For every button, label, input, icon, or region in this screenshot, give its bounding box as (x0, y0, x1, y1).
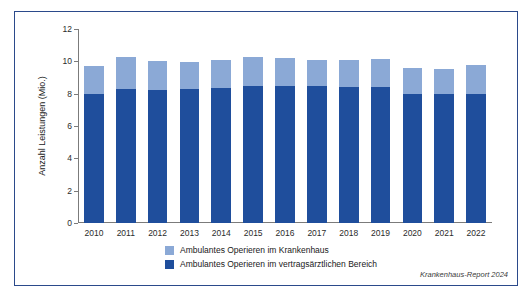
bar-group (339, 60, 359, 223)
bar-segment-krankenhaus (466, 65, 486, 93)
chart-legend: Ambulantes Operieren im KrankenhausAmbul… (165, 245, 377, 273)
y-tick-label: 2 (67, 186, 72, 196)
bar-segment-vertragsaerztlich (275, 86, 295, 223)
bar-segment-krankenhaus (243, 57, 263, 86)
x-tick-label: 2019 (365, 228, 397, 238)
bar-segment-vertragsaerztlich (403, 94, 423, 223)
legend-swatch (165, 246, 174, 255)
bar-segment-krankenhaus (434, 69, 454, 95)
bar-group (466, 65, 486, 223)
bar-segment-krankenhaus (339, 60, 359, 87)
y-tick-label: 6 (67, 121, 72, 131)
x-tick-label: 2020 (396, 228, 428, 238)
legend-swatch (165, 260, 174, 269)
bar-segment-krankenhaus (116, 57, 136, 89)
bar-segment-krankenhaus (148, 61, 168, 90)
bar-segment-vertragsaerztlich (211, 88, 231, 223)
bar-segment-krankenhaus (371, 59, 391, 87)
bar-group (403, 68, 423, 223)
bar-group (434, 69, 454, 223)
bar-segment-krankenhaus (84, 66, 104, 93)
bar-group (148, 61, 168, 223)
bar-group (84, 66, 104, 223)
bar-group (180, 62, 200, 223)
x-tick-label: 2018 (333, 228, 365, 238)
x-tick-label: 2011 (110, 228, 142, 238)
legend-item: Ambulantes Operieren im vertragsärztlich… (165, 259, 377, 269)
bar-segment-krankenhaus (275, 58, 295, 85)
source-note: Krankenhaus-Report 2024 (420, 270, 508, 279)
bar-group (116, 57, 136, 223)
y-tick-mark (74, 223, 78, 224)
bar-segment-vertragsaerztlich (116, 89, 136, 223)
bar-segment-vertragsaerztlich (84, 94, 104, 223)
x-tick-label: 2015 (237, 228, 269, 238)
bar-segment-krankenhaus (307, 60, 327, 87)
bar-segment-krankenhaus (211, 60, 231, 88)
x-tick-label: 2014 (205, 228, 237, 238)
legend-label: Ambulantes Operieren im Krankenhaus (180, 245, 329, 255)
y-tick-label: 8 (67, 89, 72, 99)
chart-figure: Anzahl Leistungen (Mio.) 024681012 20102… (14, 11, 518, 286)
x-tick-label: 2012 (142, 228, 174, 238)
y-tick-label: 0 (67, 218, 72, 228)
bar-group (371, 59, 391, 223)
bar-segment-vertragsaerztlich (148, 90, 168, 223)
bar-group (307, 60, 327, 223)
bar-segment-vertragsaerztlich (371, 87, 391, 223)
x-tick-label: 2013 (174, 228, 206, 238)
y-tick-label: 12 (63, 24, 72, 34)
bar-segment-vertragsaerztlich (307, 86, 327, 223)
y-tick-label: 4 (67, 153, 72, 163)
bar-segment-vertragsaerztlich (180, 89, 200, 223)
bar-series-container (78, 29, 492, 223)
bar-segment-vertragsaerztlich (339, 87, 359, 223)
x-tick-label: 2016 (269, 228, 301, 238)
y-axis-label: Anzahl Leistungen (Mio.) (35, 29, 49, 223)
y-tick-label: 10 (63, 56, 72, 66)
bar-segment-vertragsaerztlich (466, 94, 486, 223)
x-tick-label: 2010 (78, 228, 110, 238)
bar-segment-vertragsaerztlich (243, 86, 263, 223)
legend-label: Ambulantes Operieren im vertragsärztlich… (180, 259, 377, 269)
bar-segment-krankenhaus (403, 68, 423, 94)
bar-group (211, 60, 231, 223)
bar-segment-krankenhaus (180, 62, 200, 89)
bar-group (243, 56, 263, 223)
plot-area: 024681012 201020112012201320142015201620… (78, 29, 492, 223)
x-tick-label: 2021 (428, 228, 460, 238)
x-tick-label: 2017 (301, 228, 333, 238)
x-tick-label: 2022 (460, 228, 492, 238)
bar-group (275, 58, 295, 223)
bar-segment-vertragsaerztlich (434, 94, 454, 223)
legend-item: Ambulantes Operieren im Krankenhaus (165, 245, 377, 255)
